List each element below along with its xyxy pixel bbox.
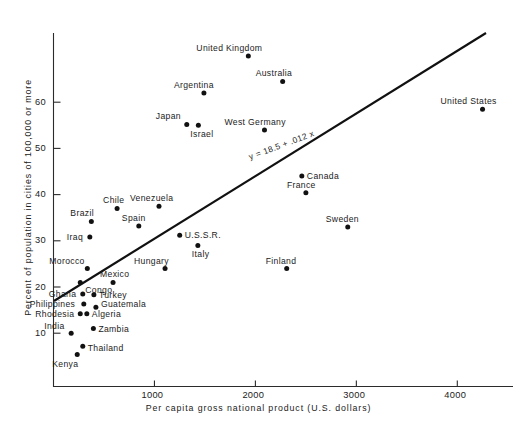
data-point bbox=[156, 204, 161, 209]
data-point bbox=[75, 352, 80, 357]
data-point bbox=[284, 266, 289, 271]
data-point bbox=[81, 302, 86, 307]
data-point bbox=[111, 280, 116, 285]
data-point bbox=[303, 190, 308, 195]
data-point bbox=[480, 107, 485, 112]
data-point bbox=[115, 206, 120, 211]
x-tick-label: 3000 bbox=[343, 391, 365, 400]
y-tick-label: 10 bbox=[35, 329, 46, 338]
data-point bbox=[84, 311, 89, 316]
y-tick-label: 40 bbox=[35, 190, 46, 199]
point-label: Morocco bbox=[49, 257, 84, 266]
point-label: West Germany bbox=[224, 118, 285, 127]
point-label: Finland bbox=[266, 257, 297, 266]
y-axis-title: Percent of population in cities of 100,0… bbox=[24, 77, 33, 317]
y-tick-label: 30 bbox=[35, 236, 46, 245]
point-label: Brazil bbox=[70, 209, 94, 218]
data-point bbox=[87, 235, 92, 240]
data-point bbox=[91, 326, 96, 331]
point-label: Algeria bbox=[92, 310, 121, 319]
point-label: Australia bbox=[256, 69, 293, 78]
point-label: Ghana bbox=[49, 290, 77, 299]
scatter-plot: United KingdomAustraliaArgentinaUnited S… bbox=[0, 0, 517, 427]
axes bbox=[54, 33, 514, 387]
data-points bbox=[69, 54, 485, 357]
point-label: Israel bbox=[190, 130, 213, 139]
point-label: Philippines bbox=[30, 300, 75, 309]
x-tick-label: 2000 bbox=[242, 391, 264, 400]
x-tick-label: 1000 bbox=[141, 391, 163, 400]
x-axis-title: Per capita gross national product (U.S. … bbox=[0, 404, 517, 413]
data-point bbox=[345, 224, 350, 229]
point-label: U.S.S.R. bbox=[185, 231, 221, 240]
point-label: United Kingdom bbox=[196, 44, 262, 53]
point-label: Chile bbox=[103, 196, 124, 205]
point-label: Mexico bbox=[100, 270, 129, 279]
data-point bbox=[195, 243, 200, 248]
point-label: Argentina bbox=[174, 81, 214, 90]
point-label: Sweden bbox=[326, 215, 359, 224]
data-point bbox=[136, 224, 141, 229]
data-point bbox=[163, 266, 168, 271]
point-label: India bbox=[44, 322, 64, 331]
data-point bbox=[69, 331, 74, 336]
data-point bbox=[262, 127, 267, 132]
data-point bbox=[196, 123, 201, 128]
point-label: Japan bbox=[156, 112, 181, 121]
data-point bbox=[80, 344, 85, 349]
data-point bbox=[85, 266, 90, 271]
x-tick-label: 4000 bbox=[444, 391, 466, 400]
data-point bbox=[177, 233, 182, 238]
data-point bbox=[201, 90, 206, 95]
data-point bbox=[78, 280, 83, 285]
point-label: Kenya bbox=[52, 360, 78, 369]
point-label: Turkey bbox=[99, 291, 127, 300]
point-label: United States bbox=[441, 97, 497, 106]
y-tick-label: 50 bbox=[35, 144, 46, 153]
data-point bbox=[299, 174, 304, 179]
data-point bbox=[184, 122, 189, 127]
point-label: Rhodesia bbox=[35, 310, 74, 319]
data-point bbox=[246, 54, 251, 59]
point-label: Guatemala bbox=[101, 300, 146, 309]
data-point bbox=[78, 311, 83, 316]
point-label: Zambia bbox=[98, 325, 129, 334]
y-tick-label: 60 bbox=[35, 98, 46, 107]
point-label: Venezuela bbox=[130, 194, 173, 203]
data-point bbox=[89, 219, 94, 224]
point-label: Spain bbox=[122, 214, 146, 223]
data-point bbox=[280, 79, 285, 84]
point-label: Hungary bbox=[134, 257, 169, 266]
point-label: Italy bbox=[192, 250, 210, 259]
point-label: Iraq bbox=[67, 233, 83, 242]
point-label: Thailand bbox=[88, 344, 124, 353]
y-tick-label: 20 bbox=[35, 283, 46, 292]
point-label: France bbox=[287, 181, 316, 190]
